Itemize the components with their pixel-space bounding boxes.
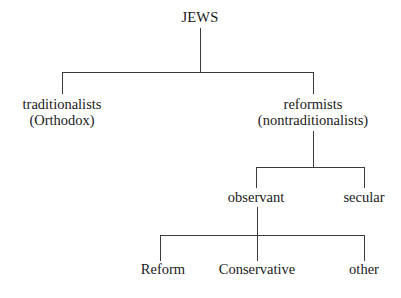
- edge-drop-reformists: [313, 72, 314, 94]
- edge-drop-secular: [364, 167, 365, 188]
- node-other-label: other: [349, 261, 379, 277]
- node-jews: JEWS: [181, 9, 218, 25]
- edge-root-stem: [200, 28, 201, 73]
- node-conservative: Conservative: [219, 261, 296, 277]
- node-other: other: [349, 261, 379, 277]
- node-traditionalists-label: traditionalists: [23, 96, 102, 112]
- node-observant-label: observant: [228, 189, 284, 205]
- edge-reformists-stem: [313, 131, 314, 168]
- node-reformists-label: reformists: [258, 96, 368, 112]
- tree-diagram: JEWS traditionalists (Orthodox) reformis…: [0, 0, 401, 298]
- edge-bar-level1: [62, 72, 314, 73]
- node-conservative-label: Conservative: [219, 261, 296, 277]
- node-observant: observant: [228, 189, 284, 205]
- edge-bar-level3: [160, 235, 364, 236]
- edge-bar-level2: [256, 167, 364, 168]
- node-reform: Reform: [141, 261, 185, 277]
- edge-drop-traditionalists: [62, 72, 63, 94]
- node-reformists-sublabel: (nontraditionalists): [258, 112, 368, 128]
- node-reformists: reformists (nontraditionalists): [258, 96, 368, 128]
- node-secular: secular: [343, 189, 384, 205]
- node-traditionalists: traditionalists (Orthodox): [23, 96, 102, 128]
- edge-drop-reform: [160, 235, 161, 261]
- node-jews-label: JEWS: [181, 9, 218, 25]
- node-reform-label: Reform: [141, 261, 185, 277]
- edge-observant-stem: [257, 207, 258, 261]
- node-secular-label: secular: [343, 189, 384, 205]
- edge-drop-observant: [256, 167, 257, 188]
- node-traditionalists-sublabel: (Orthodox): [23, 112, 102, 128]
- edge-drop-other: [364, 235, 365, 261]
